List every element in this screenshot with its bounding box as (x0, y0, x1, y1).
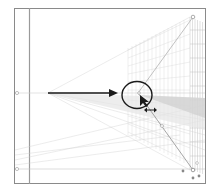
plane-handle-2[interactable] (192, 177, 195, 180)
horizon-handle[interactable] (15, 91, 18, 94)
plane-handle-3[interactable] (198, 175, 201, 178)
ground-origin-handle[interactable] (191, 168, 195, 172)
plane-handle-4[interactable] (196, 162, 199, 165)
grid-extent-handle[interactable] (191, 15, 195, 19)
plane-handle-1[interactable] (182, 170, 185, 173)
midpoint-handle[interactable] (161, 125, 164, 128)
ground-level-handle[interactable] (15, 167, 18, 170)
vanishing-point-handle[interactable] (138, 92, 141, 95)
perspective-grid-canvas[interactable] (0, 0, 217, 193)
